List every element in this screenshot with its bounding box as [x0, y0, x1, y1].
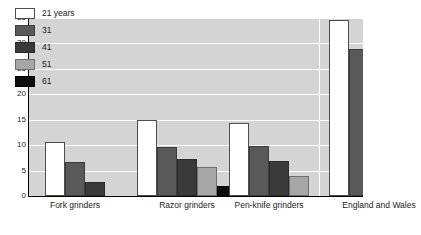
bar-pen-knife-grinders-51: [289, 176, 309, 196]
bar-fork-grinders-41: [85, 182, 105, 196]
legend-label: 61: [42, 77, 51, 86]
legend-label: 31: [42, 26, 51, 35]
legend-item-41: 41: [15, 40, 110, 55]
legend-item-31: 31: [15, 23, 110, 38]
series-2-swatch: [15, 42, 35, 53]
bar-pen-knife-grinders-31: [249, 146, 269, 196]
y-axis-tick-5: 5: [2, 167, 26, 175]
bar-razor-grinders-51: [197, 167, 217, 196]
bar-razor-grinders-31: [157, 147, 177, 196]
bar-razor-grinders-41: [177, 159, 197, 196]
bar-england-and-wales-31: [349, 49, 363, 196]
legend-item-51: 51: [15, 57, 110, 72]
legend-label: 41: [42, 43, 51, 52]
y-axis-tick-10: 10: [2, 141, 26, 149]
y-axis-tick-0: 0: [2, 192, 26, 200]
bar-pen-knife-grinders-41: [269, 161, 289, 196]
legend-item-61: 61: [15, 74, 110, 89]
x-axis-label-england-and-wales: England and Wales: [299, 200, 421, 210]
bar-fork-grinders-21-years: [45, 142, 65, 196]
gridline-10: [29, 145, 363, 146]
gridline-15: [29, 120, 363, 121]
gridline-20: [29, 94, 363, 95]
bar-england-and-wales-21-years: [329, 20, 349, 196]
y-axis-tick-15: 15: [2, 116, 26, 124]
series-0-swatch: [15, 8, 35, 19]
x-axis-line: [28, 196, 363, 197]
y-axis-tick-20: 20: [2, 90, 26, 98]
legend-item-21-years: 21 years: [15, 6, 110, 21]
bar-pen-knife-grinders-21-years: [229, 123, 249, 196]
series-1-swatch: [15, 25, 35, 36]
group-separator: [319, 18, 320, 196]
bar-fork-grinders-31: [65, 162, 85, 196]
series-3-swatch: [15, 59, 35, 70]
legend-label: 51: [42, 60, 51, 69]
series-4-swatch: [15, 76, 35, 87]
legend-label: 21 years: [42, 9, 75, 18]
bar-razor-grinders-21-years: [137, 120, 157, 196]
chart-legend: 21 years31415161: [15, 6, 110, 91]
